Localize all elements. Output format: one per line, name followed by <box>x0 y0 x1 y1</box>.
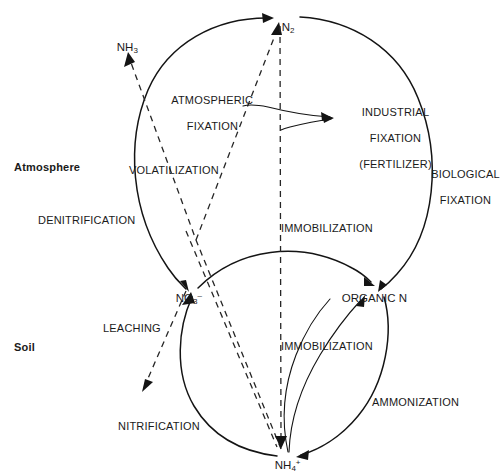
zone-label-atmosphere: Atmosphere <box>14 161 80 174</box>
process-label-immobilization-lower: IMMOBILIZATION <box>281 340 373 353</box>
species-nh4: NH4+ <box>262 446 301 474</box>
process-label-volatilization: VOLATILIZATION <box>129 164 219 177</box>
nitrogen-cycle-diagram: N2 NH3 NO3– ORGANIC N NH4+ Atmosphere So… <box>0 0 503 474</box>
process-label-leaching: LEACHING <box>103 322 161 335</box>
process-label-ammonization: AMMONIZATION <box>372 396 459 409</box>
species-n2: N2 <box>269 8 295 48</box>
arrowhead-leader-lower <box>322 114 334 123</box>
zone-label-soil: Soil <box>14 341 35 354</box>
species-nh3: NH3 <box>104 28 138 68</box>
outer-circle-left-arc <box>135 18 270 289</box>
species-no3: NO3– <box>163 279 202 319</box>
process-label-nitrification: NITRIFICATION <box>118 420 200 433</box>
species-organic-n: ORGANIC N <box>329 279 407 318</box>
industrial-fixation-leader-upper <box>243 105 330 117</box>
process-label-atmospheric-fixation: ATMOSPHERIC FIXATION <box>158 81 254 146</box>
process-label-immobilization-upper: IMMOBILIZATION <box>281 222 373 235</box>
arrowhead-leaching-out <box>142 379 153 392</box>
process-label-biological-fixation: BIOLOGICAL FIXATION <box>418 155 500 220</box>
immobilization-lower-curve <box>289 300 361 452</box>
soil-circle-right-arc <box>301 297 388 455</box>
process-label-denitrification: DENITRIFICATION <box>38 214 136 227</box>
